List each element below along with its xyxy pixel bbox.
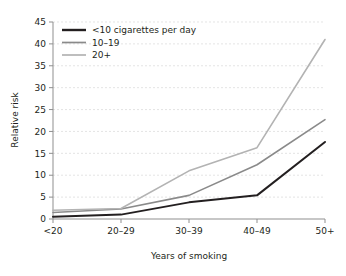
- y-tick-label: 30: [35, 83, 47, 93]
- y-tick-label: 10: [35, 170, 47, 180]
- x-axis-ticks: <2020–2930–3940–4950+: [44, 219, 335, 236]
- x-tick-label: <20: [44, 226, 63, 236]
- y-tick-label: 0: [40, 214, 46, 224]
- line-chart: 051015202530354045 <2020–2930–3940–4950+…: [0, 0, 346, 276]
- legend-label: 10–19: [92, 38, 120, 48]
- x-tick-label: 40–49: [243, 226, 271, 236]
- y-axis-title: Relative risk: [10, 92, 20, 148]
- x-tick-label: 20–29: [107, 226, 135, 236]
- legend-label: <10 cigarettes per day: [92, 25, 197, 35]
- y-tick-label: 5: [40, 192, 46, 202]
- series-line: [53, 40, 325, 211]
- x-axis-title: Years of smoking: [150, 251, 227, 261]
- y-tick-label: 25: [35, 105, 46, 115]
- series-line: [53, 120, 325, 213]
- x-tick-label: 50+: [316, 226, 335, 236]
- y-tick-label: 40: [35, 39, 47, 49]
- y-tick-label: 15: [35, 149, 46, 159]
- legend-label: 20+: [92, 50, 111, 60]
- y-tick-label: 45: [35, 17, 46, 27]
- x-tick-label: 30–39: [175, 226, 203, 236]
- y-axis-ticks: 051015202530354045: [35, 17, 53, 224]
- chart-figure: 051015202530354045 <2020–2930–3940–4950+…: [0, 0, 346, 276]
- chart-legend: <10 cigarettes per day10–1920+: [62, 25, 197, 60]
- y-tick-label: 20: [35, 127, 47, 137]
- y-tick-label: 35: [35, 61, 46, 71]
